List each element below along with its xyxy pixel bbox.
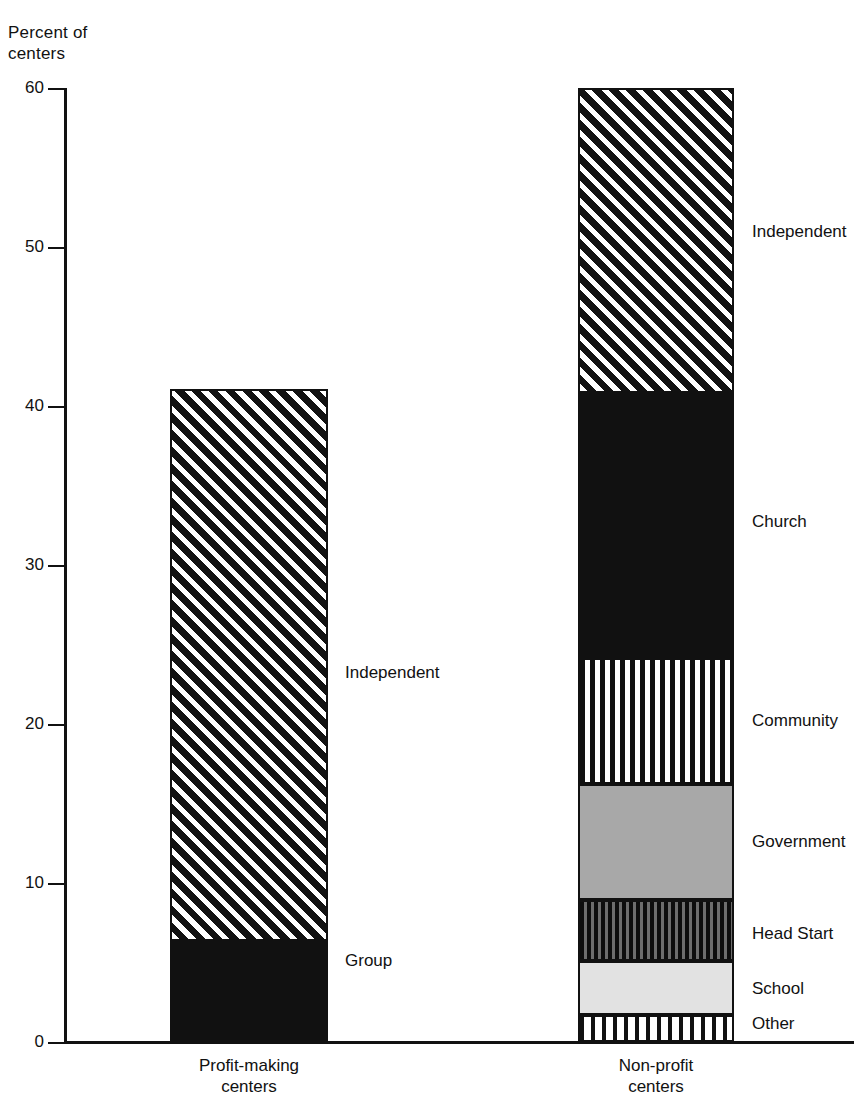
y-axis-title: Percent of centers [8, 22, 88, 64]
bar-segment-government-nonprofit[interactable] [578, 784, 734, 900]
bar-segment-group-profit[interactable] [170, 941, 328, 1042]
y-tick-label-0: 0 [0, 1033, 44, 1050]
bar-segment-school-nonprofit[interactable] [578, 961, 734, 1015]
bar-segment-church-nonprofit[interactable] [578, 393, 734, 658]
x-axis-label-profit-making-centers: Profit-making centers [159, 1055, 339, 1097]
y-tick-20 [48, 724, 65, 726]
y-tick-60 [48, 88, 65, 90]
stacked-bar-chart: Percent of centers 60 50 40 30 20 10 0 [0, 0, 861, 1109]
segment-label-head-start-nonprofit: Head Start [752, 924, 833, 943]
segment-label-community-nonprofit: Community [752, 711, 838, 730]
bar-profit-making-centers[interactable] [170, 88, 328, 1042]
segment-label-independent-profit: Independent [345, 663, 440, 682]
y-tick-40 [48, 406, 65, 408]
y-tick-label-60: 60 [0, 79, 44, 96]
segment-label-church-nonprofit: Church [752, 512, 807, 531]
bar-segment-other-nonprofit[interactable] [578, 1015, 734, 1042]
bar-segment-community-nonprofit[interactable] [578, 658, 734, 784]
y-tick-label-40: 40 [0, 397, 44, 414]
segment-label-government-nonprofit: Government [752, 832, 846, 851]
y-tick-label-20: 20 [0, 715, 44, 732]
bar-non-profit-centers[interactable] [578, 88, 734, 1042]
bar-segment-independent-nonprofit[interactable] [578, 88, 734, 393]
y-tick-label-10: 10 [0, 874, 44, 891]
y-tick-label-30: 30 [0, 556, 44, 573]
y-tick-30 [48, 565, 65, 567]
segment-label-school-nonprofit: School [752, 979, 804, 998]
segment-label-independent-nonprofit: Independent [752, 222, 847, 241]
bar-segment-head-start-nonprofit[interactable] [578, 900, 734, 961]
bar-segment-independent-profit[interactable] [170, 389, 328, 941]
segment-label-other-nonprofit: Other [752, 1014, 795, 1033]
y-tick-50 [48, 247, 65, 249]
segment-label-group-profit: Group [345, 951, 392, 970]
y-tick-0 [48, 1042, 65, 1044]
y-tick-10 [48, 883, 65, 885]
x-axis-label-non-profit-centers: Non-profit centers [566, 1055, 746, 1097]
y-tick-label-50: 50 [0, 238, 44, 255]
